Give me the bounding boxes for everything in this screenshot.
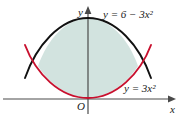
graph-figure: y = 6 − 3x² y = 3x² y x O: [0, 0, 183, 122]
lower-curve-label: y = 3x²: [124, 83, 156, 94]
plot-canvas: [0, 0, 183, 122]
y-axis-label: y: [78, 7, 83, 18]
x-axis-label: x: [170, 104, 175, 115]
y-axis-arrowhead: [85, 6, 92, 14]
upper-curve-label: y = 6 − 3x²: [103, 9, 153, 20]
origin-label: O: [77, 101, 85, 112]
x-axis-arrowhead: [168, 96, 176, 103]
